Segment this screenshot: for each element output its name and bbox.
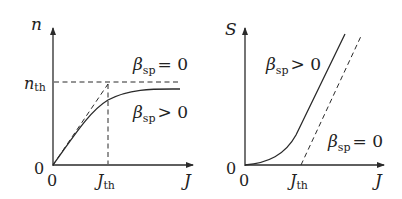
left-beta-positive-label: βsp> 0 — [132, 102, 188, 125]
right-plot-photon-density: S J 0 0 Jth βsp> 0 βsp= 0 — [225, 19, 384, 192]
right-origin-y-label: 0 — [226, 159, 236, 178]
left-beta-zero-label: βsp= 0 — [132, 54, 188, 77]
left-y-axis-label: n — [31, 14, 42, 34]
left-jth-label: Jth — [94, 171, 115, 192]
left-origin-x-label: 0 — [47, 171, 57, 190]
left-real-curve — [53, 89, 180, 165]
left-plot-carrier-density: n J 0 0 nth Jth βsp= 0 βsp> 0 — [24, 14, 193, 192]
right-jth-label: Jth — [287, 171, 308, 192]
left-nth-label: nth — [24, 74, 46, 94]
right-beta-zero-label: βsp= 0 — [327, 131, 383, 154]
right-beta-positive-label: βsp> 0 — [265, 54, 321, 77]
right-origin-x-label: 0 — [239, 171, 249, 190]
laser-rate-diagram: n J 0 0 nth Jth βsp= 0 βsp> 0 S J 0 0 Jt… — [0, 0, 402, 199]
right-x-axis-label: J — [372, 170, 383, 190]
right-y-axis-label: S — [225, 19, 237, 39]
left-x-axis-label: J — [181, 170, 192, 190]
left-origin-y-label: 0 — [34, 159, 44, 178]
